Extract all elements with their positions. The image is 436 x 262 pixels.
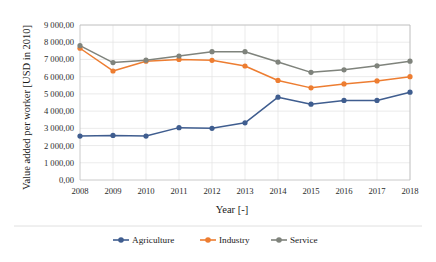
x-tick-label: 2017	[368, 186, 386, 196]
x-tick-label: 2011	[171, 186, 188, 196]
data-point-agriculture	[275, 95, 280, 100]
data-point-agriculture	[110, 133, 115, 138]
y-tick-label: 7 000,00	[44, 54, 74, 64]
data-point-industry	[209, 58, 214, 63]
legend-label-agriculture: Agriculture	[132, 235, 174, 245]
legend-label-industry: Industry	[219, 235, 250, 245]
y-tick-label: 3 000,00	[44, 123, 74, 133]
data-point-service	[77, 43, 82, 48]
data-point-service	[242, 49, 247, 54]
data-point-agriculture	[77, 133, 82, 138]
data-point-industry	[110, 68, 115, 73]
data-point-agriculture	[209, 126, 214, 131]
data-point-agriculture	[242, 120, 247, 125]
data-point-industry	[374, 78, 379, 83]
line-chart: Value added per worker [USD in 2010] Yea…	[0, 0, 436, 262]
x-tick-label: 2010	[137, 186, 154, 196]
data-point-service	[209, 49, 214, 54]
data-point-industry	[308, 85, 313, 90]
grid-lines	[80, 25, 410, 180]
data-point-service	[374, 63, 379, 68]
chart-legend: AgricultureIndustryService	[14, 226, 422, 245]
legend-label-service: Service	[290, 235, 318, 245]
legend-marker-agriculture	[118, 237, 124, 243]
x-tick-label: 2016	[335, 186, 353, 196]
x-tick-label: 2018	[401, 186, 418, 196]
data-point-service	[110, 60, 115, 65]
y-tick-label: 9 000,00	[44, 20, 74, 30]
y-tick-label: 0,00	[59, 175, 74, 185]
y-axis-tick-labels: 0,001 000,002 000,003 000,004 000,005 00…	[44, 20, 74, 185]
x-tick-label: 2014	[269, 186, 287, 196]
y-tick-label: 1 000,00	[44, 158, 74, 168]
data-point-industry	[242, 63, 247, 68]
data-point-industry	[407, 74, 412, 79]
data-point-agriculture	[176, 125, 181, 130]
y-tick-label: 5 000,00	[44, 89, 74, 99]
x-tick-label: 2009	[104, 186, 121, 196]
data-point-service	[341, 67, 346, 72]
data-point-agriculture	[374, 98, 379, 103]
data-point-agriculture	[341, 98, 346, 103]
y-tick-label: 2 000,00	[44, 141, 74, 151]
data-point-industry	[275, 78, 280, 83]
data-point-service	[176, 53, 181, 58]
data-point-service	[407, 59, 412, 64]
x-tick-label: 2015	[302, 186, 319, 196]
data-point-agriculture	[143, 133, 148, 138]
data-point-agriculture	[407, 90, 412, 95]
legend-marker-service	[276, 237, 282, 243]
data-point-service	[308, 70, 313, 75]
x-axis-tick-labels: 2008200920102011201220132014201520162017…	[71, 186, 418, 196]
data-point-industry	[341, 81, 346, 86]
y-tick-label: 8 000,00	[44, 37, 74, 47]
y-tick-label: 6 000,00	[44, 72, 74, 82]
data-point-service	[143, 58, 148, 63]
data-point-agriculture	[308, 102, 313, 107]
y-axis-title: Value added per worker [USD in 2010]	[21, 25, 32, 190]
x-axis-title: Year [-]	[216, 204, 248, 215]
chart-figure: Value added per worker [USD in 2010] Yea…	[0, 0, 436, 262]
x-tick-label: 2008	[71, 186, 88, 196]
x-tick-label: 2012	[203, 186, 220, 196]
data-point-service	[275, 59, 280, 64]
legend-marker-industry	[205, 237, 211, 243]
x-tick-label: 2013	[236, 186, 253, 196]
y-tick-label: 4 000,00	[44, 106, 74, 116]
